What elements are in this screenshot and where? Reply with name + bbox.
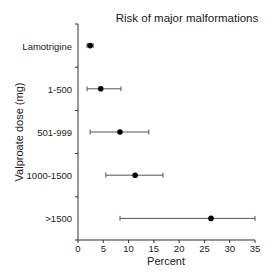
data-point (98, 86, 104, 92)
plot-area (0, 0, 274, 276)
data-point (132, 172, 138, 178)
data-point (117, 129, 123, 135)
data-point (208, 216, 214, 222)
data-point (87, 43, 93, 49)
